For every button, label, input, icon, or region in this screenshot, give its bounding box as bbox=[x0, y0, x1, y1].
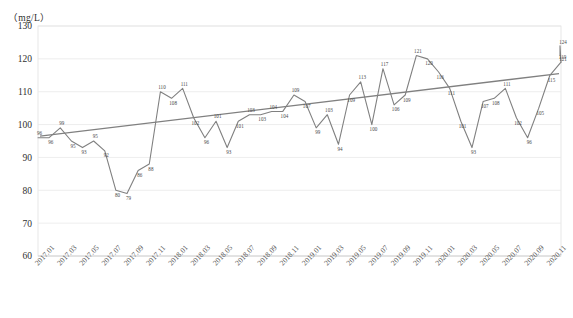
y-axis-tick-label: 90 bbox=[23, 153, 33, 163]
y-axis-tick-label: 70 bbox=[23, 219, 33, 229]
data-point-label: 104 bbox=[281, 113, 289, 119]
data-point-label: 101 bbox=[236, 123, 244, 129]
y-axis-tick-label: 110 bbox=[18, 87, 32, 97]
data-point-label: 93 bbox=[471, 149, 477, 155]
y-axis-tick-label: 60 bbox=[23, 251, 33, 261]
data-point-label: 92 bbox=[104, 152, 110, 158]
data-point-label: 116 bbox=[436, 74, 444, 80]
data-point-label: 120 bbox=[425, 60, 433, 66]
data-point-label: 109 bbox=[347, 97, 355, 103]
line-chart: 607080901001101201302017.012017.032017.0… bbox=[0, 0, 573, 318]
data-point-label: 107 bbox=[481, 103, 489, 109]
data-point-label: 105 bbox=[537, 110, 545, 116]
data-point-label: 96 bbox=[48, 139, 54, 145]
data-point-label: 79 bbox=[126, 195, 132, 201]
y-axis-tick-label: 120 bbox=[18, 54, 33, 64]
data-point-label: 96 bbox=[204, 139, 210, 145]
data-point-label: 109 bbox=[292, 87, 300, 93]
data-point-label: 95 bbox=[70, 143, 76, 149]
y-axis-tick-label: 130 bbox=[18, 21, 33, 31]
data-point-label: 115 bbox=[548, 77, 556, 83]
data-point-label: 94 bbox=[337, 146, 343, 152]
data-point-label: 80 bbox=[115, 192, 121, 198]
data-point-label: 95 bbox=[93, 133, 99, 139]
data-point-label: 106 bbox=[392, 106, 400, 112]
chart-container: （mg/L） 607080901001101201302017.012017.0… bbox=[0, 0, 573, 318]
data-point-label: 103 bbox=[247, 107, 255, 113]
data-point-label: 103 bbox=[258, 116, 266, 122]
data-point-label: 99 bbox=[315, 129, 321, 135]
data-point-label: 93 bbox=[226, 149, 232, 155]
data-point-label: 101 bbox=[459, 123, 467, 129]
data-point-label: 107 bbox=[303, 103, 311, 109]
data-point-label: 110 bbox=[158, 84, 166, 90]
data-point-label: 108 bbox=[492, 100, 500, 106]
data-point-label: 104 bbox=[269, 104, 277, 110]
data-point-label: 111 bbox=[448, 90, 456, 96]
data-point-label: 111 bbox=[503, 81, 511, 87]
plot-area bbox=[38, 26, 561, 256]
data-point-label: 113 bbox=[359, 74, 367, 80]
y-axis-tick-label: 80 bbox=[23, 186, 33, 196]
data-point-label: 124 bbox=[559, 39, 567, 45]
data-point-label: 86 bbox=[137, 172, 143, 178]
data-point-label: 111 bbox=[181, 81, 189, 87]
data-point-label: 103 bbox=[325, 107, 333, 113]
data-point-label: 101 bbox=[214, 113, 222, 119]
data-point-label: 93 bbox=[82, 149, 88, 155]
data-point-label: 109 bbox=[403, 97, 411, 103]
data-point-label: 121 bbox=[414, 48, 422, 54]
data-point-label: 88 bbox=[148, 166, 154, 172]
data-point-label: 96 bbox=[527, 139, 533, 145]
data-point-label: 108 bbox=[169, 100, 177, 106]
data-point-label: 99 bbox=[59, 120, 65, 126]
data-point-label: 100 bbox=[370, 126, 378, 132]
y-axis-tick-label: 100 bbox=[18, 120, 33, 130]
data-point-label: 96 bbox=[37, 130, 43, 136]
data-point-label: 102 bbox=[192, 120, 200, 126]
data-point-label: 117 bbox=[381, 61, 389, 67]
data-point-label: 121 bbox=[559, 56, 567, 62]
data-point-label: 102 bbox=[514, 120, 522, 126]
